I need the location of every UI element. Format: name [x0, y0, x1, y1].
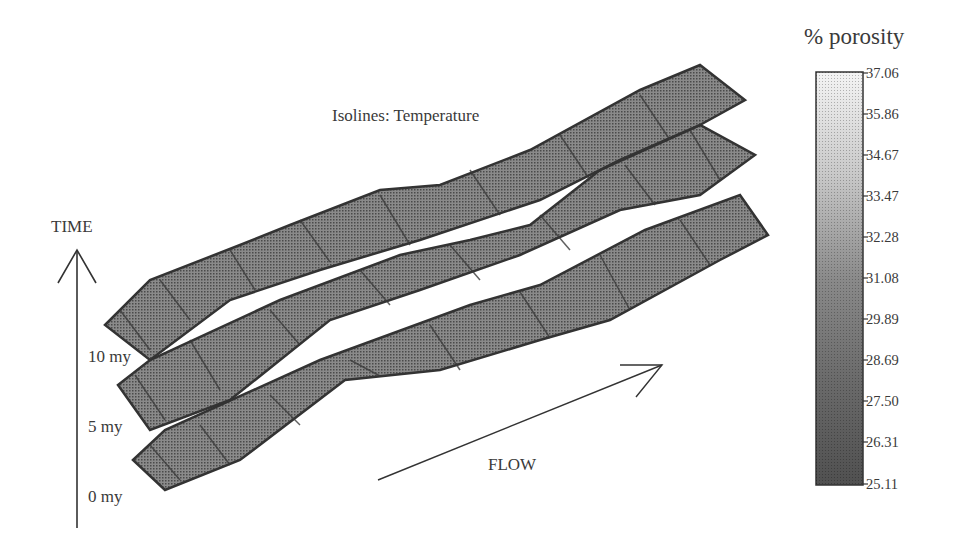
legend-tick: 27.50: [866, 394, 899, 409]
legend-tick: 33.47: [866, 189, 899, 204]
legend-tick: 25.11: [866, 477, 898, 492]
flow-label: FLOW: [488, 456, 536, 473]
legend-title: % porosity: [804, 24, 904, 50]
legend-tick: 37.06: [866, 66, 899, 81]
time-tick-5my: 5 my: [88, 418, 122, 435]
isolines-annotation: Isolines: Temperature: [332, 107, 479, 124]
legend-tick: 26.31: [866, 435, 899, 450]
time-tick-10my: 10 my: [88, 348, 131, 365]
diagram-canvas: [0, 0, 964, 548]
legend-tick: 29.89: [866, 312, 899, 327]
time-axis-label: TIME: [51, 218, 93, 235]
legend-tick: 28.69: [866, 353, 899, 368]
time-tick-0my: 0 my: [88, 488, 122, 505]
legend-tick: 35.86: [866, 107, 899, 122]
legend-tick: 34.67: [866, 148, 899, 163]
porosity-colorbar: [816, 72, 868, 485]
legend-tick: 32.28: [866, 230, 899, 245]
legend-tick: 31.08: [866, 271, 899, 286]
